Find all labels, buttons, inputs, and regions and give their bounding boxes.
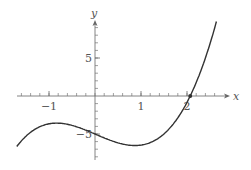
ticks [21, 28, 214, 157]
x-tick-label: −1 [41, 100, 57, 113]
tick-labels: −1125−5 [41, 52, 191, 141]
y-axis-label: y [90, 7, 98, 20]
root-point [188, 94, 192, 98]
curve-line [17, 22, 217, 147]
chart: −1125−5 x y [0, 0, 251, 170]
x-tick-label: 1 [138, 100, 145, 113]
axes [17, 20, 230, 160]
y-tick-label: 5 [85, 52, 92, 65]
x-axis-label: x [233, 90, 240, 103]
